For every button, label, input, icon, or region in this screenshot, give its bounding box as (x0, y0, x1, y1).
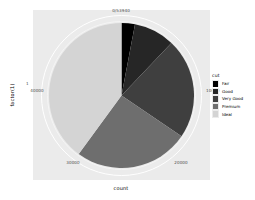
legend-swatch-icon (213, 81, 219, 87)
legend-key (212, 88, 219, 95)
legend-item-very-good[interactable]: Very Good (212, 95, 254, 103)
y-axis-title: factor(1) (9, 83, 15, 106)
legend-swatch-icon (213, 104, 219, 110)
legend-item-fair[interactable]: Fair (212, 80, 254, 88)
axis-tick-30000: 30000 (66, 160, 80, 165)
pie-chart (49, 23, 194, 168)
legend-key (212, 80, 219, 87)
legend-label: Ideal (222, 112, 232, 117)
legend-label: Very Good (222, 96, 243, 101)
legend-swatch-icon (213, 111, 219, 117)
legend-label: Good (222, 89, 233, 94)
plot-panel: 0/53940 10000 20000 30000 40000 (33, 10, 210, 180)
x-axis-title: count (114, 185, 129, 191)
chart-figure: 0/53940 10000 20000 30000 40000 1 count … (0, 0, 255, 200)
y-axis-tick-label: 1 (26, 81, 29, 86)
legend-swatch-icon (213, 96, 219, 102)
legend-key (212, 110, 219, 117)
pie-slices (49, 23, 194, 168)
legend-label: Fair (222, 81, 229, 86)
legend-title: cut (212, 73, 254, 78)
pie-svg (49, 23, 194, 168)
legend-key (212, 95, 219, 102)
legend-swatch-icon (213, 89, 219, 95)
axis-tick-0: 0/53940 (112, 8, 130, 13)
axis-tick-20000: 20000 (174, 160, 188, 165)
axis-tick-40000: 40000 (30, 88, 44, 93)
legend-item-good[interactable]: Good (212, 88, 254, 96)
legend-items: FairGoodVery GoodPremiumIdeal (212, 80, 254, 118)
legend-item-premium[interactable]: Premium (212, 103, 254, 111)
legend: cut FairGoodVery GoodPremiumIdeal (212, 73, 254, 118)
legend-label: Premium (222, 104, 240, 109)
legend-key (212, 103, 219, 110)
legend-item-ideal[interactable]: Ideal (212, 110, 254, 118)
